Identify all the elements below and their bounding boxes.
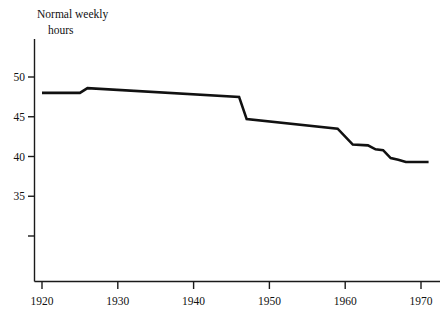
x-tick-label: 1920: [31, 295, 54, 307]
x-tick-label: 1960: [334, 295, 357, 307]
x-tick-label: 1950: [258, 295, 281, 307]
y-axis-title-line2: hours: [48, 24, 74, 36]
y-axis-title-line1: Normal weekly: [37, 8, 108, 21]
series-line-normal-weekly-hours: [42, 88, 429, 162]
y-axis-ticks: 50454035: [14, 71, 35, 236]
x-axis-ticks: 192019301940195019601970: [31, 282, 433, 308]
y-tick-label: 50: [14, 71, 26, 83]
x-tick-label: 1930: [106, 295, 129, 307]
chart-container: Normal weekly hours 50454035 19201930194…: [0, 0, 447, 322]
line-chart: Normal weekly hours 50454035 19201930194…: [0, 0, 447, 322]
x-tick-label: 1970: [410, 295, 433, 307]
y-tick-label: 45: [14, 111, 26, 123]
y-tick-label: 40: [14, 151, 26, 163]
x-tick-label: 1940: [182, 295, 205, 307]
y-tick-label: 35: [14, 190, 26, 202]
